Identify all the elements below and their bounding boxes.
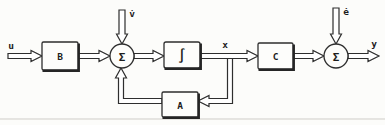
block-c-label: C [273, 51, 279, 62]
arrow-sum1-to-integrator [134, 51, 164, 62]
sum-junction-2-label: Σ [333, 51, 340, 64]
feedback-a-to-sum1 [116, 68, 163, 104]
sum-junction-2: Σ [324, 44, 348, 68]
arrow-c-to-sum2 [293, 51, 324, 62]
arrow-y-output [348, 51, 379, 62]
figure-canvas: B ∫ C A Σ Σ u v̇ x ė [0, 0, 385, 125]
signal-vdot-label: v̇ [129, 8, 135, 19]
arrow-u-input [8, 51, 42, 62]
arrow-vdot-input [117, 10, 128, 44]
signal-y-label: y [371, 38, 377, 49]
block-integrator: ∫ [164, 42, 201, 69]
block-integrator-label: ∫ [178, 48, 186, 63]
block-b-label: B [57, 51, 63, 62]
arrow-b-to-sum1 [78, 51, 110, 62]
signal-x-label: x [222, 39, 228, 50]
block-a-label: A [177, 100, 183, 111]
sum-junction-1-label: Σ [119, 51, 126, 64]
signal-u-label: u [8, 40, 14, 51]
block-diagram: B ∫ C A Σ Σ u v̇ x ė [0, 0, 385, 125]
sum-junction-1: Σ [110, 44, 134, 68]
block-b: B [42, 42, 79, 71]
feedback-branch-into-a [198, 59, 233, 107]
arrow-edot-input [331, 8, 342, 44]
signal-edot-label: ė [343, 6, 349, 17]
block-a: A [162, 92, 199, 118]
block-c: C [258, 43, 294, 70]
